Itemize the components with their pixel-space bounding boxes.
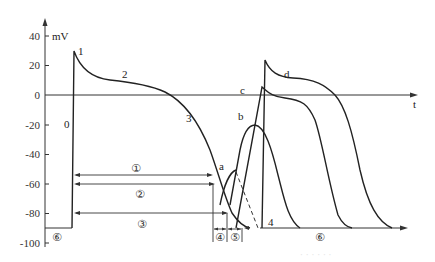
tick-0: 0 — [35, 89, 41, 101]
tick-minus20: -20 — [25, 119, 40, 131]
y-axis-arrow-icon — [43, 18, 48, 26]
tick-40: 40 — [29, 30, 41, 42]
period-label-5: ⑤ — [230, 231, 240, 244]
tick-minus80: -80 — [25, 207, 40, 219]
action-potential-diagram: 40 20 0 -20 -40 -60 -80 -100 mV t 1 2 3 … — [0, 0, 435, 262]
curve-label-c: c — [240, 84, 245, 96]
curve-label-a: a — [219, 160, 224, 172]
phase-label-0: 0 — [64, 118, 70, 130]
period-label-4: ④ — [215, 231, 225, 244]
phase-label-1: 1 — [78, 45, 84, 57]
period-1-arrow — [74, 173, 213, 177]
main-action-potential-curve — [72, 51, 250, 228]
time-axis-label: t — [413, 98, 416, 110]
curve-c — [236, 87, 352, 228]
tick-minus40: -40 — [25, 148, 40, 160]
y-unit-label: mV — [52, 30, 69, 42]
period-label-6-left: ⑥ — [52, 231, 62, 244]
period-label-1: ① — [131, 162, 141, 175]
phase-label-4: 4 — [268, 216, 274, 228]
curve-label-d: d — [284, 68, 290, 80]
phase-label-2: 2 — [122, 68, 128, 80]
period-label-3: ③ — [137, 218, 147, 231]
tick-20: 20 — [29, 59, 41, 71]
curve-label-b: b — [238, 110, 244, 122]
period-label-2: ② — [135, 188, 145, 201]
curve-d — [262, 60, 392, 228]
watermark-text: · · · · · · — [300, 250, 331, 260]
curve-b — [230, 125, 300, 228]
y-ticks — [45, 36, 49, 243]
period-2-arrow — [74, 182, 215, 186]
curve-a-decay-dashed — [236, 172, 258, 228]
period-label-6-right: ⑥ — [315, 231, 325, 244]
phase-label-3: 3 — [186, 112, 192, 124]
period-3-arrow — [74, 211, 228, 215]
tick-minus100: -100 — [20, 237, 41, 249]
tick-minus60: -60 — [25, 178, 40, 190]
time-axis-arrow-icon — [410, 93, 418, 98]
baseline-arrow-icon — [400, 226, 408, 231]
